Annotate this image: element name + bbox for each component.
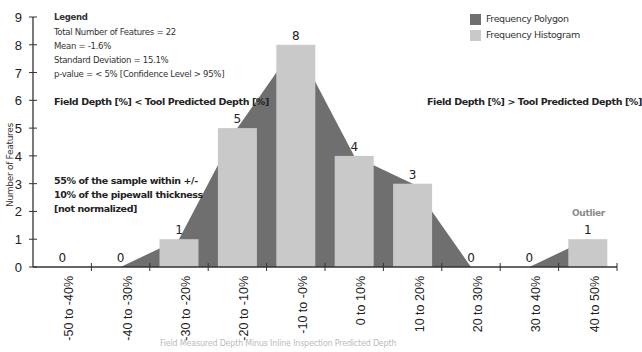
polygon-swatch	[470, 14, 481, 25]
histogram-bar	[335, 156, 374, 267]
bar-value-label: 3	[409, 168, 417, 182]
bar-value-label: 0	[526, 251, 534, 265]
x-tick-label: -50 to -40%	[62, 276, 76, 352]
y-axis-title: Number of Features	[5, 115, 15, 215]
y-tick-label: 2	[15, 204, 22, 219]
bar-value-label: 0	[117, 251, 125, 265]
histogram-bar	[160, 239, 199, 267]
bar-value-label: 0	[467, 251, 475, 265]
x-tick-label: 40 to 50%	[588, 276, 602, 352]
x-tick-label: 10 to 20%	[413, 276, 427, 352]
y-tick-label: 3	[15, 177, 22, 192]
x-tick-label: -30 to -20%	[179, 276, 193, 352]
bar-value-label: 0	[58, 251, 66, 265]
y-tick-label: 4	[15, 149, 22, 164]
x-tick-label: -20 to -10%	[237, 276, 251, 352]
y-tick-label: 5	[15, 121, 22, 136]
right-region-note: Field Depth [%] > Tool Predicted Depth […	[427, 93, 642, 110]
x-tick-label: -10 to -0%	[296, 276, 310, 352]
x-tick-label: 0 to 10%	[354, 276, 368, 352]
bar-value-label: 1	[175, 223, 183, 237]
sample-note-line-3: [not normalized]	[54, 200, 137, 217]
x-tick-label: 30 to 40%	[529, 276, 543, 352]
polygon-key-label: Frequency Polygon	[486, 13, 569, 24]
x-tick-label: 20 to 30%	[471, 276, 485, 352]
bar-value-label: 5	[234, 112, 242, 126]
histogram-key-label: Frequency Histogram	[486, 29, 580, 40]
outlier-label: Outlier	[572, 208, 605, 218]
x-tick-label: -40 to -30%	[121, 276, 135, 352]
histogram-bar	[218, 128, 257, 267]
y-tick-label: 8	[15, 38, 22, 53]
y-tick-label: 6	[15, 93, 22, 108]
legend-mean: Mean = -1.6%	[54, 40, 111, 51]
legend-std-dev: Standard Deviation = 15.1%	[54, 54, 168, 65]
histogram-bar	[568, 239, 607, 267]
histogram-swatch	[470, 30, 481, 41]
legend-title: Legend	[54, 11, 88, 22]
legend-total-features: Total Number of Features = 22	[54, 26, 176, 37]
y-tick-label: 7	[15, 66, 22, 81]
left-region-note: Field Depth [%] < Tool Predicted Depth […	[54, 93, 269, 110]
y-tick-label: 9	[15, 10, 22, 25]
histogram-bar	[276, 45, 315, 267]
legend-p-value: p-value = < 5% [Confidence Level > 95%]	[54, 68, 224, 79]
histogram-bar	[393, 184, 432, 267]
bar-value-label: 8	[292, 29, 300, 43]
y-tick-label: 0	[15, 260, 22, 275]
y-tick-label: 1	[15, 232, 22, 247]
bar-value-label: 4	[350, 140, 358, 154]
bar-value-label: 1	[584, 223, 592, 237]
